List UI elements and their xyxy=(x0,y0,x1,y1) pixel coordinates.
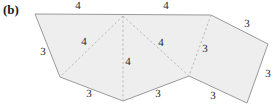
fold-center-length: 4 xyxy=(125,57,131,68)
upper-right-edge-length: 3 xyxy=(244,19,250,30)
figure-panel: (b) 443444333333 xyxy=(0,0,277,109)
top-left-edge-length: 4 xyxy=(75,1,81,12)
top-right-edge-length: 4 xyxy=(163,1,169,12)
bottom-center-edge-length: 3 xyxy=(155,89,161,100)
fold-right-length: 4 xyxy=(158,38,164,49)
bottom-left-edge-length: 3 xyxy=(86,89,92,100)
fold-left-length: 4 xyxy=(81,37,87,48)
left-slant-edge-length: 3 xyxy=(40,47,46,58)
fold-far-right-length: 3 xyxy=(202,44,208,55)
bottom-right-edge-length: 3 xyxy=(210,91,216,102)
net-outline-polygon xyxy=(35,14,268,103)
right-edge-length: 3 xyxy=(265,69,271,80)
